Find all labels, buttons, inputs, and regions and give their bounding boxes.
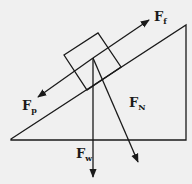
- normal-force-label: FN: [129, 96, 146, 111]
- diagram-lines: [0, 0, 192, 184]
- incline-diagram: Ff Fp FN Fw: [0, 0, 192, 184]
- friction-force-label: Ff: [154, 10, 167, 25]
- parallel-force-label: Fp: [22, 99, 37, 114]
- weight-force-label: Fw: [76, 147, 92, 162]
